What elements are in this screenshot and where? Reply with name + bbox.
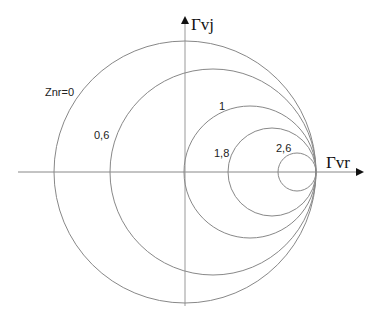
label-r-1.8: 1,8	[214, 147, 229, 159]
label-r-2.6: 2,6	[276, 142, 291, 154]
label-r-0.6: 0,6	[94, 129, 109, 141]
smith-chart-resistance-circles: Γvj Γvr Znr=0 0,6 1 1,8 2,6	[0, 0, 382, 323]
vertical-axis-arrow-icon	[181, 16, 189, 24]
horizontal-axis-arrow-icon	[356, 168, 364, 176]
label-r-0: Znr=0	[45, 86, 74, 98]
label-r-1: 1	[219, 100, 225, 112]
x-axis-label: Γvr	[326, 153, 350, 172]
y-axis-label: Γvj	[191, 15, 214, 34]
